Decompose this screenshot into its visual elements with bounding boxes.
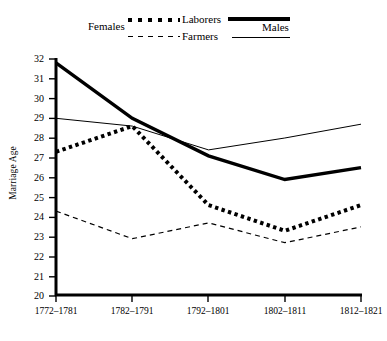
series-line-females-farmers	[56, 211, 361, 243]
y-tick-label: 25	[22, 193, 44, 203]
x-tick-label: 1812–1821	[321, 306, 387, 317]
y-tick-label: 26	[22, 173, 44, 183]
legend-series-laborers-label: Laborers	[182, 13, 221, 25]
x-tick-label: 1792–1801	[168, 306, 248, 317]
y-tick-label: 27	[22, 153, 44, 163]
y-tick-label: 29	[22, 113, 44, 123]
y-tick-label: 28	[22, 133, 44, 143]
legend-series-farmers-label: Farmers	[182, 30, 218, 42]
plot-canvas	[0, 48, 379, 341]
chart-legend: Females Laborers Farmers Males	[0, 6, 379, 48]
y-tick-label: 22	[22, 252, 44, 262]
legend-swatch-males-farmers-icon	[232, 37, 290, 38]
y-tick-label: 30	[22, 94, 44, 104]
legend-swatch-females-farmers-icon	[128, 36, 180, 37]
y-tick-label: 32	[22, 54, 44, 64]
y-tick-label: 31	[22, 74, 44, 84]
legend-group-males-label: Males	[262, 21, 289, 33]
series-line-males-farmers	[56, 118, 361, 150]
x-tick-label: 1772–1781	[16, 306, 96, 317]
y-tick-label: 23	[22, 232, 44, 242]
series-line-females-laborers	[56, 126, 361, 231]
y-tick-label: 20	[22, 291, 44, 301]
y-tick-label: 21	[22, 272, 44, 282]
legend-group-females-label: Females	[88, 20, 125, 32]
x-tick-label: 1802–1811	[245, 306, 325, 317]
series-line-males-laborers	[56, 63, 361, 180]
y-tick-label: 24	[22, 212, 44, 222]
x-tick-label: 1782–1791	[92, 306, 172, 317]
legend-swatch-females-laborers-icon	[128, 18, 180, 22]
plot-area: Marriage Age	[0, 48, 379, 341]
